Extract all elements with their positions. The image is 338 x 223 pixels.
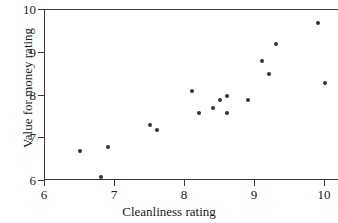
- data-point: [190, 89, 194, 93]
- data-point: [218, 98, 222, 102]
- data-point: [78, 149, 82, 153]
- y-axis-tick: [38, 9, 44, 10]
- data-point: [99, 175, 103, 179]
- data-point: [267, 72, 271, 76]
- scatter-plot-figure: 678910 678910 Cleanliness rating Value f…: [0, 0, 338, 223]
- x-axis-tick: [184, 180, 185, 186]
- x-axis-title: Cleanliness rating: [0, 204, 338, 220]
- data-point: [225, 111, 229, 115]
- data-point: [323, 81, 327, 85]
- x-axis-tick-label: 8: [169, 188, 199, 201]
- x-axis-tick-label: 10: [309, 188, 338, 201]
- x-axis-tick-label: 9: [239, 188, 269, 201]
- x-axis-tick-label: 6: [29, 188, 59, 201]
- x-axis-tick-label: 7: [99, 188, 129, 201]
- data-points-layer: [45, 10, 338, 179]
- x-axis-tick: [44, 180, 45, 186]
- data-point: [260, 59, 264, 63]
- x-axis-tick: [114, 180, 115, 186]
- x-axis-tick: [254, 180, 255, 186]
- data-point: [197, 111, 201, 115]
- data-point: [211, 106, 215, 110]
- x-axis-tick: [324, 180, 325, 186]
- y-axis-title: Value for money rating: [20, 0, 36, 178]
- y-axis-tick: [38, 137, 44, 138]
- data-point: [246, 98, 250, 102]
- data-point: [155, 128, 159, 132]
- data-point: [225, 94, 229, 98]
- plot-area: [44, 9, 338, 180]
- data-point: [274, 42, 278, 46]
- data-point: [106, 145, 110, 149]
- y-axis-tick: [38, 95, 44, 96]
- data-point: [148, 123, 152, 127]
- data-point: [316, 21, 320, 25]
- y-axis-tick: [38, 52, 44, 53]
